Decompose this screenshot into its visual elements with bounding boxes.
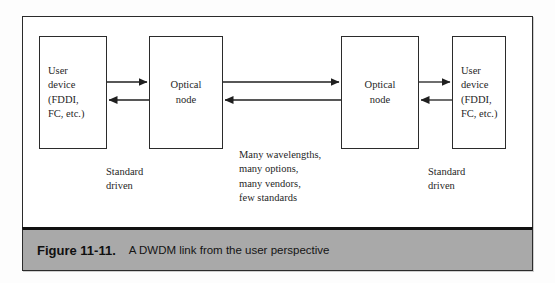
- node-line: (FDDI,: [48, 93, 79, 107]
- node-line: device: [461, 78, 488, 92]
- figure-caption-number: Figure 11-11.: [37, 243, 116, 258]
- node-user-device-left: User device (FDDI, FC, etc.): [39, 36, 107, 149]
- node-line: node: [176, 93, 196, 107]
- label-standard-driven-left: Standard driven: [106, 165, 143, 194]
- node-line: FC, etc.): [461, 107, 497, 121]
- node-line: device: [48, 78, 75, 92]
- node-line: User: [48, 64, 68, 78]
- node-line: (FDDI,: [461, 93, 492, 107]
- node-line: User: [461, 64, 481, 78]
- node-line: Optical: [365, 78, 396, 92]
- node-line: Optical: [171, 78, 202, 92]
- node-optical-node-right: Optical node: [341, 36, 419, 149]
- node-line: FC, etc.): [48, 107, 84, 121]
- node-optical-node-left: Optical node: [149, 36, 223, 149]
- figure-caption-text: A DWDM link from the user perspective: [129, 244, 330, 256]
- node-user-device-right: User device (FDDI, FC, etc.): [452, 36, 506, 149]
- label-standard-driven-right: Standard driven: [428, 165, 465, 194]
- figure-caption-bar: Figure 11-11. A DWDM link from the user …: [22, 227, 533, 271]
- node-line: node: [370, 93, 390, 107]
- figure-root: User device (FDDI, FC, etc.) Optical nod…: [0, 0, 555, 283]
- label-center-notes: Many wavelengths, many options, many ven…: [239, 148, 321, 206]
- diagram-area: User device (FDDI, FC, etc.) Optical nod…: [23, 17, 532, 227]
- figure-frame: User device (FDDI, FC, etc.) Optical nod…: [22, 16, 533, 271]
